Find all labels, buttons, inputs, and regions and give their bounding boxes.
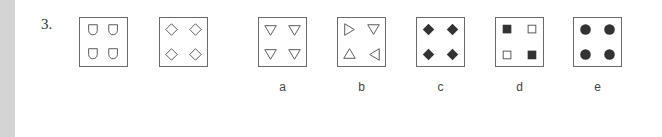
option-c-figure[interactable] bbox=[416, 17, 465, 67]
option-c-label[interactable]: c bbox=[416, 80, 465, 94]
sequence-figure-1 bbox=[79, 17, 128, 67]
shield-shapes-icon bbox=[80, 18, 127, 66]
option-a-figure[interactable] bbox=[258, 17, 307, 67]
option-d-figure[interactable] bbox=[495, 17, 544, 67]
diamond-outline-shapes-icon bbox=[160, 18, 207, 66]
option-b-label[interactable]: b bbox=[337, 80, 386, 94]
page-margin-strip bbox=[0, 0, 15, 137]
sequence-figure-2 bbox=[159, 17, 208, 67]
question-page: 3. bbox=[0, 0, 662, 137]
option-b-figure[interactable] bbox=[337, 17, 386, 67]
triangle-rotating-shapes-icon bbox=[338, 18, 385, 66]
square-checker-shapes-icon bbox=[496, 18, 543, 66]
circle-filled-shapes-icon bbox=[574, 18, 621, 66]
question-number: 3. bbox=[41, 16, 52, 33]
triangle-down-shapes-icon bbox=[259, 18, 306, 66]
option-d-label[interactable]: d bbox=[495, 80, 544, 94]
diamond-filled-shapes-icon bbox=[417, 18, 464, 66]
option-e-label[interactable]: e bbox=[573, 80, 622, 94]
option-e-figure[interactable] bbox=[573, 17, 622, 67]
option-a-label[interactable]: a bbox=[258, 80, 307, 94]
